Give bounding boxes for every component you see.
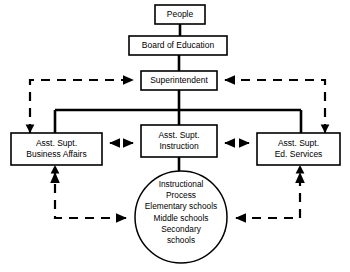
node-shapes <box>11 5 340 263</box>
node-people-box[interactable] <box>155 5 205 24</box>
arrowhead-business-affairs-up <box>51 165 60 174</box>
node-ed-services-box[interactable] <box>257 133 340 165</box>
diagram-canvas: People Board of Education Superintendent… <box>0 0 350 272</box>
node-instruction-box[interactable] <box>141 125 217 157</box>
arrowhead-business-affairs-down <box>26 125 35 134</box>
node-superintendent-box[interactable] <box>141 71 217 90</box>
link-process-ed-services <box>236 173 300 218</box>
link-business-affairs-superintendent <box>30 80 133 133</box>
link-process-business-affairs <box>55 173 126 218</box>
org-chart-svg <box>0 0 350 272</box>
arrowhead-ed-services-down <box>321 125 330 134</box>
node-instructional-process-circle[interactable] <box>135 171 227 263</box>
arrowhead-ed-services-up <box>296 165 305 174</box>
node-board-box[interactable] <box>129 36 227 55</box>
node-business-affairs-box[interactable] <box>11 133 102 165</box>
link-ed-services-superintendent <box>225 80 325 133</box>
